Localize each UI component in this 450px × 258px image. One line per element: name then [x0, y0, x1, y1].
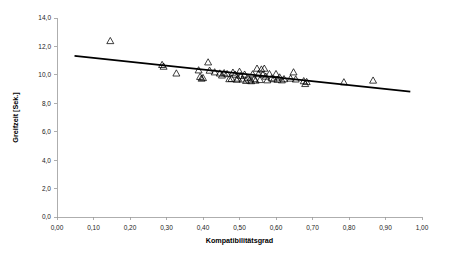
plot-area: 0,02,04,06,08,010,012,014,00,000,100,200…: [0, 0, 450, 258]
y-tick-label: 8,0: [42, 100, 51, 107]
scatter-chart: 0,02,04,06,08,010,012,014,00,000,100,200…: [0, 0, 450, 258]
x-tick-label: 0,50: [233, 224, 246, 231]
data-point-marker: [107, 37, 114, 43]
x-tick-label: 0,40: [197, 224, 210, 231]
x-tick-label: 0,00: [51, 224, 64, 231]
data-point-marker: [173, 70, 180, 76]
y-tick-label: 6,0: [42, 128, 51, 135]
y-tick-label: 2,0: [42, 185, 51, 192]
x-tick-label: 1,00: [416, 224, 429, 231]
x-tick-label: 0,30: [160, 224, 173, 231]
data-points-group: [107, 37, 377, 86]
x-axis-title: Kompatibilitätsgrad: [206, 236, 274, 245]
x-tick-label: 0,10: [87, 224, 100, 231]
x-tick-label: 0,20: [124, 224, 137, 231]
x-tick-label: 0,70: [306, 224, 319, 231]
x-tick-label: 0,90: [379, 224, 392, 231]
data-point-marker: [254, 65, 261, 71]
x-tick-label: 0,80: [343, 224, 356, 231]
y-tick-label: 0,0: [42, 213, 51, 220]
x-tick-label: 0,60: [270, 224, 283, 231]
regression-line: [75, 56, 411, 92]
y-tick-label: 4,0: [42, 157, 51, 164]
y-tick-label: 10,0: [38, 71, 51, 78]
y-axis-title: Greifzeit [Sek.]: [11, 92, 20, 142]
y-tick-label: 14,0: [38, 14, 51, 21]
data-point-marker: [290, 69, 297, 75]
data-point-marker: [370, 77, 377, 83]
y-tick-label: 12,0: [38, 43, 51, 50]
data-point-marker: [205, 59, 212, 65]
